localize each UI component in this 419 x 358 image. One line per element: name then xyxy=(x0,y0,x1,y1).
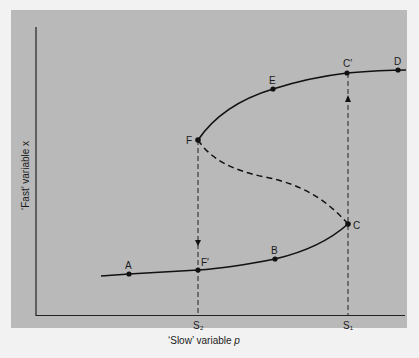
point-a xyxy=(126,271,131,276)
label-f: F xyxy=(186,135,192,146)
upper-stable-branch xyxy=(198,70,406,140)
lower-stable-branch xyxy=(101,224,348,276)
point-e xyxy=(270,86,275,91)
point-c-prime xyxy=(344,70,349,75)
data-points xyxy=(126,67,400,276)
label-f-prime: F′ xyxy=(201,257,209,268)
arrow-down-icon xyxy=(195,240,201,246)
unstable-branch xyxy=(198,140,348,224)
point-d xyxy=(395,67,400,72)
hysteresis-diagram: A F′ B C F E C′ D S₂ S₁ ‘Slow’ variable … xyxy=(0,0,419,358)
label-c-prime: C′ xyxy=(343,58,352,69)
label-c: C xyxy=(353,220,360,231)
y-axis-title: ‘Fast’ variable x xyxy=(20,141,31,210)
label-d: D xyxy=(394,56,401,67)
label-b: B xyxy=(271,245,278,256)
tick-s1: S₁ xyxy=(343,320,354,331)
label-a: A xyxy=(125,260,132,271)
point-f-prime xyxy=(195,267,200,272)
tick-s2: S₂ xyxy=(193,320,204,331)
arrow-up-icon xyxy=(345,95,351,102)
x-axis-title: ‘Slow’ variable p xyxy=(168,335,240,346)
point-b xyxy=(272,256,277,261)
point-f xyxy=(195,137,201,143)
label-e: E xyxy=(269,75,276,86)
point-c xyxy=(345,221,351,227)
